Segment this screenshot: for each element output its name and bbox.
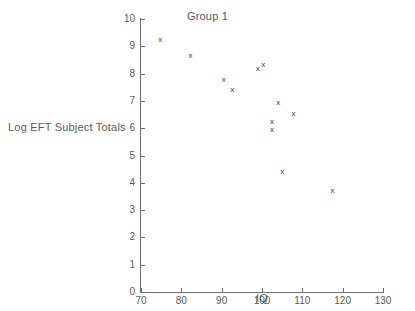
y-axis-tick-label: 9 — [109, 40, 135, 51]
data-point-marker: x — [269, 118, 276, 125]
y-axis-tick-label: 6 — [109, 122, 135, 133]
plot-area: xxxxxxxxxxxx — [141, 19, 383, 292]
y-axis-tick-label: 2 — [109, 231, 135, 242]
data-point-marker: x — [220, 76, 227, 83]
x-axis-tick-label: 100 — [247, 295, 277, 306]
x-axis-tick-label: 130 — [368, 295, 398, 306]
x-axis-line — [140, 292, 384, 293]
y-axis-tick-label: 5 — [109, 150, 135, 161]
y-axis-tick-label: 4 — [109, 177, 135, 188]
scatter-plot-figure: Group 1 Log EFT Subject Totals IQ 012345… — [0, 0, 415, 311]
y-axis-tick-label: 7 — [109, 95, 135, 106]
data-point-marker: x — [260, 61, 267, 68]
y-axis-tick-label: 3 — [109, 204, 135, 215]
x-axis-tick-label: 120 — [328, 295, 358, 306]
data-point-marker: x — [187, 52, 194, 59]
data-point-marker: x — [290, 110, 297, 117]
data-point-marker: x — [269, 126, 276, 133]
data-point-marker: x — [275, 99, 282, 106]
x-axis-tick-label: 80 — [166, 295, 196, 306]
data-point-marker: x — [229, 86, 236, 93]
y-axis-tick-label: 1 — [109, 259, 135, 270]
y-axis-tick-label: 10 — [109, 13, 135, 24]
x-axis-tick-label: 90 — [207, 295, 237, 306]
data-point-marker: x — [329, 187, 336, 194]
x-axis-tick-label: 70 — [126, 295, 156, 306]
x-axis-tick-label: 110 — [287, 295, 317, 306]
x-axis-tick — [383, 288, 384, 292]
y-axis-tick-label: 8 — [109, 68, 135, 79]
data-point-marker: x — [157, 36, 164, 43]
y-axis-tick — [141, 292, 145, 293]
data-point-marker: x — [279, 168, 286, 175]
